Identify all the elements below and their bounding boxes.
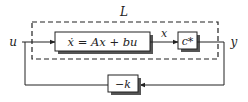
plant-block-label: ẋ = Ax + bu <box>68 35 138 49</box>
output-map-block-label: c* <box>182 35 194 48</box>
state-label: x <box>161 27 168 40</box>
system-boundary-label: L <box>119 5 128 19</box>
output-label: y <box>230 35 238 49</box>
input-label: u <box>9 35 17 49</box>
feedback-block-diagram: L u ẋ = Ax + bu x c* y −k <box>0 0 248 102</box>
feedback-gain-block-label: −k <box>115 78 131 91</box>
